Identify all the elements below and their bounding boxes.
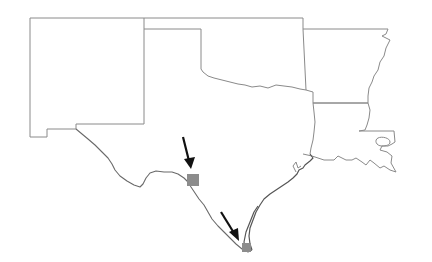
arrow-1-head: [184, 157, 195, 169]
site-marker-1[interactable]: [187, 174, 199, 186]
tx-la-border: [310, 103, 315, 154]
texas-gulf-coast: [249, 154, 313, 250]
site-marker-2[interactable]: [242, 243, 251, 252]
state-texas-rio-grande: [76, 129, 252, 252]
lake-pontchartrain: [376, 137, 390, 146]
arrow-2-shaft: [221, 212, 234, 233]
state-new-mexico: [30, 18, 144, 137]
state-arkansas: [303, 29, 390, 103]
galveston-bay: [293, 162, 301, 172]
arrow-1-shaft: [183, 137, 189, 161]
state-oklahoma: [144, 18, 306, 90]
map: [0, 0, 432, 262]
map-canvas: [0, 0, 432, 262]
